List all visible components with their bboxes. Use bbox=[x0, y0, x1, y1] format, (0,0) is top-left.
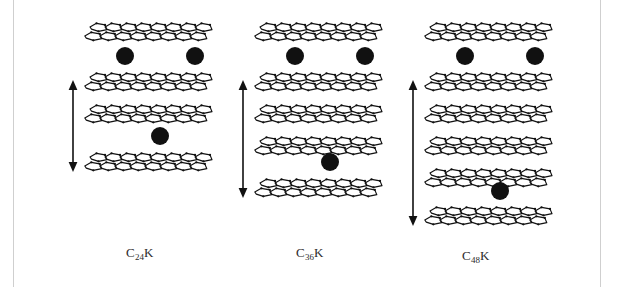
potassium-atom bbox=[151, 127, 169, 145]
formula-intercalant-symbol: K bbox=[144, 245, 154, 260]
potassium-atom bbox=[356, 47, 374, 65]
formula-label-stage-3: C36K bbox=[296, 245, 324, 262]
formula-subscript: 48 bbox=[471, 255, 480, 265]
graphene-sheet bbox=[420, 206, 556, 232]
graphene-sheet bbox=[80, 22, 216, 48]
graphene-sheet bbox=[80, 152, 216, 178]
formula-intercalant-symbol: K bbox=[314, 245, 324, 260]
graphene-sheet bbox=[420, 72, 556, 98]
graphene-sheet bbox=[250, 72, 386, 98]
graphene-sheet bbox=[80, 72, 216, 98]
potassium-atom bbox=[286, 47, 304, 65]
graphene-sheet bbox=[80, 104, 216, 130]
formula-element-symbol: C bbox=[296, 245, 305, 260]
repeat-distance-arrow bbox=[406, 80, 420, 226]
formula-subscript: 24 bbox=[135, 252, 144, 262]
graphene-sheet bbox=[420, 104, 556, 130]
graphene-sheet bbox=[250, 136, 386, 162]
formula-label-stage-4: C48K bbox=[462, 248, 490, 265]
potassium-atom bbox=[186, 47, 204, 65]
formula-label-stage-2: C24K bbox=[126, 245, 154, 262]
graphene-sheet bbox=[250, 178, 386, 204]
figure-border-left bbox=[13, 0, 14, 287]
graphene-sheet bbox=[250, 104, 386, 130]
potassium-atom bbox=[456, 47, 474, 65]
formula-element-symbol: C bbox=[462, 248, 471, 263]
figure-border-right bbox=[600, 0, 601, 287]
potassium-atom bbox=[526, 47, 544, 65]
graphene-sheet bbox=[420, 168, 556, 194]
potassium-atom bbox=[321, 153, 339, 171]
formula-element-symbol: C bbox=[126, 245, 135, 260]
repeat-distance-arrow bbox=[66, 80, 80, 172]
potassium-atom bbox=[491, 182, 509, 200]
formula-subscript: 36 bbox=[305, 252, 314, 262]
formula-intercalant-symbol: K bbox=[480, 248, 490, 263]
graphene-sheet bbox=[420, 22, 556, 48]
potassium-atom bbox=[116, 47, 134, 65]
graphite-intercalation-figure: C24KC36KC48K bbox=[0, 0, 627, 287]
graphene-sheet bbox=[250, 22, 386, 48]
graphene-sheet bbox=[420, 136, 556, 162]
repeat-distance-arrow bbox=[236, 80, 250, 198]
